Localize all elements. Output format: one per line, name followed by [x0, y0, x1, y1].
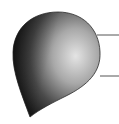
teardrop-illustration [0, 0, 119, 124]
